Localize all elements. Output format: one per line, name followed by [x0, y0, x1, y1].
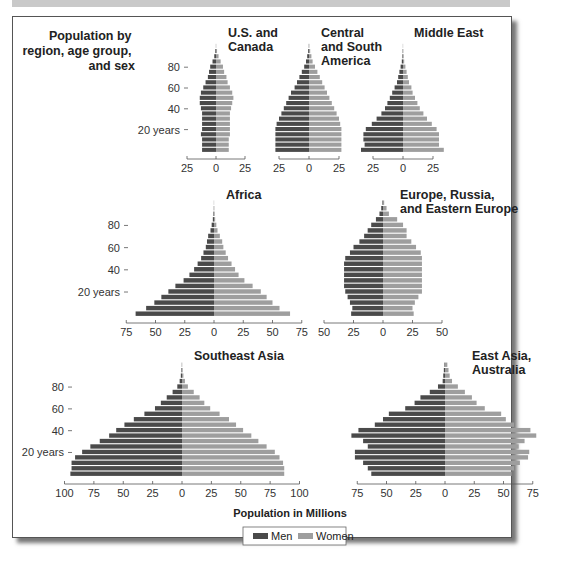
- bar-men: [184, 278, 214, 282]
- bar-women: [383, 311, 414, 315]
- age-label: 20 years: [78, 286, 121, 298]
- x-tick-label: 0: [211, 326, 217, 338]
- bar-women: [445, 450, 529, 454]
- bar-women: [214, 262, 232, 266]
- bar-men: [279, 117, 309, 121]
- population-pyramids-chart: Population by region, age group, and sex…: [0, 0, 574, 576]
- bar-women: [445, 379, 452, 383]
- bar-women: [182, 401, 204, 405]
- x-tick-label: 75: [296, 326, 308, 338]
- panel-title: East Asia,Australia: [472, 349, 531, 377]
- bar-women: [216, 91, 232, 95]
- x-tick-label: 25: [468, 487, 480, 499]
- bar-men: [402, 54, 403, 58]
- bar-women: [383, 273, 422, 277]
- x-tick-label: 25: [205, 487, 217, 499]
- bar-women: [214, 289, 261, 293]
- bar-women: [383, 250, 421, 254]
- bar-men: [363, 132, 403, 136]
- age-label: 20 years: [138, 124, 181, 136]
- bar-men: [376, 217, 383, 221]
- bar-women: [403, 143, 439, 147]
- bar-men: [308, 49, 309, 53]
- bar-women: [445, 455, 528, 459]
- age-label: 80: [168, 61, 180, 73]
- bar-men: [371, 472, 445, 476]
- bar-women: [403, 65, 405, 69]
- bar-women: [214, 284, 253, 288]
- bar-women: [182, 417, 229, 421]
- x-tick-label: 25: [347, 326, 359, 338]
- bar-women: [214, 306, 280, 310]
- bar-men: [344, 273, 383, 277]
- bar-men: [181, 368, 182, 372]
- bar-women: [182, 428, 243, 432]
- bar-men: [90, 444, 182, 448]
- bar-women: [383, 239, 411, 243]
- bar-men: [307, 54, 309, 58]
- x-tick-label: 100: [55, 487, 73, 499]
- bar-women: [216, 106, 231, 110]
- bar-women: [182, 390, 194, 394]
- bar-men: [401, 65, 403, 69]
- bar-men: [350, 300, 383, 304]
- bar-women: [445, 466, 514, 470]
- bar-women: [445, 428, 530, 432]
- bar-men: [415, 401, 445, 405]
- bar-men: [161, 401, 182, 405]
- bar-women: [214, 217, 215, 221]
- bar-men: [368, 466, 445, 470]
- bar-women: [216, 132, 230, 136]
- bar-men: [345, 256, 383, 260]
- bar-women: [445, 444, 519, 448]
- bar-women: [403, 127, 437, 131]
- bar-men: [383, 417, 445, 421]
- bar-women: [216, 65, 223, 69]
- bar-women: [216, 80, 228, 84]
- bar-women: [445, 412, 501, 416]
- bar-men: [72, 461, 182, 465]
- panel-title: Africa: [226, 188, 262, 202]
- bar-women: [403, 75, 408, 79]
- bar-women: [216, 59, 221, 63]
- bar-women: [182, 373, 183, 377]
- x-tick-label: 25: [147, 487, 159, 499]
- bar-men: [351, 433, 445, 437]
- bar-men: [444, 368, 445, 372]
- bar-men: [168, 289, 214, 293]
- pyramid-u-s-and-canada: U.S. andCanada2502580604020 years: [138, 26, 278, 174]
- bar-women: [383, 289, 422, 293]
- bar-men: [297, 80, 309, 84]
- bar-men: [198, 262, 214, 266]
- bar-women: [383, 300, 415, 304]
- bar-men: [275, 143, 309, 147]
- bar-men: [202, 143, 216, 147]
- bar-men: [350, 250, 383, 254]
- x-tick-label: 25: [181, 162, 193, 174]
- bar-women: [403, 106, 420, 110]
- bar-men: [352, 306, 383, 310]
- bar-men: [214, 54, 216, 58]
- x-tick-label: 25: [179, 326, 191, 338]
- bar-men: [377, 117, 403, 121]
- bar-women: [309, 75, 320, 79]
- bar-women: [214, 300, 273, 304]
- bar-women: [383, 295, 418, 299]
- bar-men: [368, 228, 383, 232]
- bar-men: [358, 428, 445, 432]
- bar-men: [387, 101, 403, 105]
- x-tick-label: 50: [117, 487, 129, 499]
- bar-women: [182, 461, 283, 465]
- bar-women: [309, 117, 339, 121]
- pyramid-southeast-asia: Southeast Asia10075502502550751008060402…: [22, 349, 309, 499]
- bar-men: [215, 49, 216, 53]
- bar-women: [309, 148, 341, 152]
- bar-women: [182, 444, 267, 448]
- bar-women: [214, 278, 244, 282]
- bar-women: [216, 85, 230, 89]
- bar-women: [403, 148, 444, 152]
- bar-men: [181, 373, 182, 377]
- bar-women: [216, 75, 226, 79]
- x-tick-label: 0: [442, 487, 448, 499]
- bar-women: [445, 423, 514, 427]
